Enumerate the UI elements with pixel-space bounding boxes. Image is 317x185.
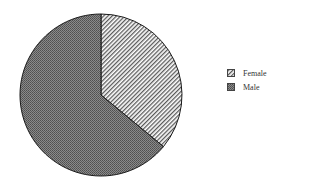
legend-label-female: Female: [243, 69, 267, 78]
legend: Female Male: [227, 66, 267, 94]
legend-label-male: Male: [243, 83, 259, 92]
female-hatch-swatch-icon: [227, 69, 235, 77]
legend-item-male: Male: [227, 80, 267, 94]
pie-slices: [20, 14, 182, 176]
male-stipple-swatch-icon: [227, 83, 235, 91]
pie-chart: [0, 0, 317, 185]
legend-item-female: Female: [227, 66, 267, 80]
